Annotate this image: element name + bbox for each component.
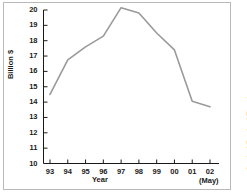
- chart-figure: 1011121314151617181920 93949596979899000…: [0, 0, 247, 196]
- y-axis-ticks: [44, 10, 48, 164]
- y-axis-title: Billion $: [6, 35, 15, 95]
- x-tick-label: 94: [59, 167, 77, 176]
- y-tick-label: 13: [22, 112, 38, 121]
- x-tick-label: 01: [183, 167, 201, 176]
- x-tick-label: 98: [130, 167, 148, 176]
- y-tick-label: 10: [22, 159, 38, 168]
- x-tick-label: 00: [165, 167, 183, 176]
- x-tick-label: 93: [41, 167, 59, 176]
- y-tick-label: 18: [22, 36, 38, 45]
- y-tick-label: 11: [22, 143, 38, 152]
- x-tick-label: 99: [148, 167, 166, 176]
- y-tick-label: 14: [22, 97, 38, 106]
- y-tick-label: 17: [22, 51, 38, 60]
- y-tick-label: 19: [22, 20, 38, 29]
- x-axis-ticks: [50, 160, 210, 164]
- x-axis-title: Year: [92, 175, 108, 184]
- data-series-line: [50, 8, 210, 107]
- y-tick-label: 20: [22, 5, 38, 14]
- x-tick-label: 97: [112, 167, 130, 176]
- chart-plot-area: 1011121314151617181920 93949596979899000…: [0, 0, 247, 196]
- y-tick-label: 15: [22, 82, 38, 91]
- y-tick-label: 12: [22, 128, 38, 137]
- axes: [44, 10, 220, 164]
- x-tick-label: 02: [201, 167, 219, 176]
- source-attribution: Source: Central Bank of Egypt: [246, 96, 247, 196]
- may-note-label: (May): [199, 176, 219, 185]
- y-tick-label: 16: [22, 66, 38, 75]
